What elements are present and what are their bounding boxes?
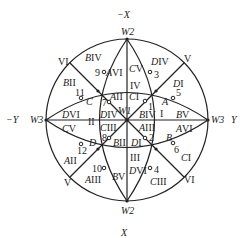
- region-label-ciii-b: CIII: [150, 176, 167, 187]
- intersection-lr: [154, 147, 157, 150]
- outer-roman-lr: VI: [184, 174, 195, 185]
- point-1: [143, 99, 147, 103]
- point-5: [171, 96, 175, 100]
- pole-w2-top-dot: [125, 37, 128, 40]
- sector-roman-bottom: III: [130, 152, 140, 163]
- number-2: 2: [149, 132, 154, 143]
- region-label-dvi-l: DVI: [61, 109, 80, 120]
- number-9: 9: [95, 67, 100, 78]
- pole-w1-dot: [125, 118, 129, 122]
- outer-roman-ul: VI: [58, 56, 69, 67]
- number-4: 4: [154, 164, 159, 175]
- region-label-biv-top: BIV: [85, 52, 102, 63]
- svg-text:DIV: DIV: [99, 109, 119, 120]
- region-label-cv-top: CV: [129, 63, 144, 74]
- svg-text:A: A: [161, 96, 169, 107]
- region-label-avi-r: AVI: [175, 123, 193, 134]
- svg-text:BV: BV: [112, 171, 126, 182]
- svg-text:CIII: CIII: [100, 122, 117, 133]
- point-3: [148, 70, 152, 74]
- svg-text:BIV: BIV: [139, 109, 156, 120]
- svg-text:DI: DI: [130, 137, 142, 148]
- region-label-aiii-b: AIII: [84, 174, 101, 185]
- region-label-a-ur: A: [161, 96, 169, 107]
- pole-label-w3-left: W3: [30, 114, 43, 125]
- axis-label-y: Y: [231, 114, 238, 125]
- region-label-c-ul: C: [86, 96, 93, 107]
- stereographic-diagram: −X X −Y Y W2 W2 W3 W3 W1 VI V V VI 1 2 3…: [0, 0, 246, 238]
- svg-text:DVI: DVI: [128, 165, 147, 176]
- region-label-aiii-c: AIII: [138, 122, 155, 133]
- svg-text:CI: CI: [181, 152, 191, 163]
- svg-text:CIII: CIII: [150, 176, 167, 187]
- svg-text:BIV: BIV: [85, 52, 102, 63]
- region-label-d-ll: D: [88, 137, 97, 148]
- pole-w3-right-dot: [206, 118, 209, 121]
- region-label-div-c: DIV: [99, 109, 119, 120]
- svg-text:CV: CV: [62, 123, 77, 134]
- svg-text:C: C: [86, 96, 93, 107]
- region-label-aii-c: AII: [109, 91, 123, 102]
- region-label-aii-ll: AII: [63, 155, 77, 166]
- svg-text:BV: BV: [176, 109, 190, 120]
- svg-text:DVI: DVI: [61, 109, 80, 120]
- sector-roman-top: IV: [130, 80, 141, 91]
- axis-label-neg-x: −X: [117, 9, 131, 20]
- number-3: 3: [154, 69, 159, 80]
- region-label-ci-lr: CI: [181, 152, 191, 163]
- outer-roman-ll: V: [64, 177, 72, 188]
- point-2: [143, 136, 147, 140]
- sector-roman-left: II: [88, 116, 95, 127]
- region-label-b-lr: B: [166, 132, 172, 143]
- axis-label-neg-y: −Y: [6, 114, 20, 125]
- svg-text:DIV: DIV: [150, 56, 170, 67]
- pole-label-w1: W1: [118, 105, 131, 116]
- svg-text:AVI: AVI: [105, 67, 123, 78]
- number-7: 7: [102, 97, 107, 108]
- svg-text:BII: BII: [63, 77, 76, 88]
- number-10: 10: [92, 163, 102, 174]
- region-label-bv-r: BV: [176, 109, 190, 120]
- region-label-di-c: DI: [130, 137, 142, 148]
- number-6: 6: [174, 144, 179, 155]
- diagram-canvas: −X X −Y Y W2 W2 W3 W3 W1 VI V V VI 1 2 3…: [0, 0, 246, 238]
- region-label-cv-l: CV: [62, 123, 77, 134]
- number-8: 8: [102, 132, 107, 143]
- point-4: [148, 166, 152, 170]
- intersection-ul: [96, 89, 99, 92]
- svg-text:B: B: [166, 132, 172, 143]
- pole-w2-bottom-dot: [125, 199, 128, 202]
- number-12: 12: [77, 145, 87, 156]
- region-label-avi-top: AVI: [105, 67, 123, 78]
- pole-label-w3-right: W3: [211, 114, 224, 125]
- point-8: [107, 136, 111, 140]
- svg-text:AII: AII: [63, 155, 77, 166]
- sector-roman-right: I: [160, 108, 163, 119]
- region-label-di-ur: DI: [172, 78, 184, 89]
- svg-text:CV: CV: [129, 63, 144, 74]
- axis-label-x: X: [120, 227, 128, 238]
- svg-text:AVI: AVI: [175, 123, 193, 134]
- pole-label-w2-bottom: W2: [121, 205, 134, 216]
- outer-roman-ur: V: [184, 53, 192, 64]
- svg-text:AIII: AIII: [138, 122, 155, 133]
- svg-text:BII: BII: [113, 137, 126, 148]
- svg-text:D: D: [88, 137, 97, 148]
- region-label-div-top: DIV: [150, 56, 170, 67]
- svg-text:AII: AII: [109, 91, 123, 102]
- number-11: 11: [75, 87, 85, 98]
- pole-w3-left-dot: [44, 118, 47, 121]
- intersection-ur: [154, 89, 157, 92]
- point-10: [102, 166, 106, 170]
- region-label-bii-ul: BII: [63, 77, 76, 88]
- svg-text:CI: CI: [129, 91, 139, 102]
- intersection-ll: [96, 147, 99, 150]
- region-label-dvi-b: DVI: [128, 165, 147, 176]
- region-label-bv-b: BV: [112, 171, 126, 182]
- region-label-ci-c: CI: [129, 91, 139, 102]
- svg-text:DI: DI: [172, 78, 184, 89]
- pole-label-w2-top: W2: [121, 26, 134, 37]
- region-label-biv-c: BIV: [139, 109, 156, 120]
- svg-text:AIII: AIII: [84, 174, 101, 185]
- region-label-ciii-c: CIII: [100, 122, 117, 133]
